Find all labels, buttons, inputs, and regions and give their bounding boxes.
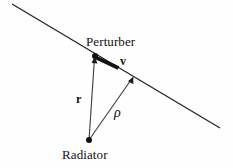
separation-vector-label: ρ bbox=[114, 106, 121, 120]
perturber-label: Perturber bbox=[86, 35, 135, 48]
velocity-vector-label: v bbox=[120, 55, 126, 67]
vector-diagram-figure: Perturber Radiator v r ρ bbox=[0, 0, 233, 168]
radiator-point bbox=[86, 137, 92, 143]
diagram-canvas bbox=[0, 0, 233, 168]
radiator-label: Radiator bbox=[62, 148, 108, 161]
perturber-point bbox=[92, 53, 98, 59]
velocity-vector-v bbox=[95, 57, 119, 68]
position-vector-r-shaft bbox=[89, 61, 94, 140]
position-vector-label: r bbox=[76, 93, 81, 105]
separation-vector-rho-shaft bbox=[89, 81, 130, 140]
